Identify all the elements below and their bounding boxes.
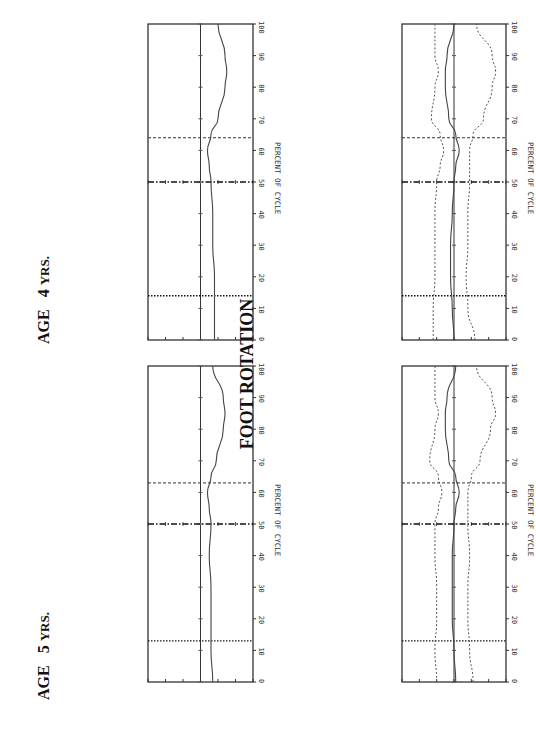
percent-tick-label: 100 <box>510 21 518 34</box>
chart-age5-sd: 3020100-10-20-300102030405060708090100PE… <box>362 362 536 692</box>
percent-tick-label: 80 <box>257 426 265 434</box>
percent-tick-label: 40 <box>257 553 265 561</box>
percent-tick-label: 100 <box>257 21 265 34</box>
percent-tick-label: 0 <box>257 337 265 341</box>
percent-tick-label: 50 <box>257 521 265 529</box>
percent-tick-label: 60 <box>257 147 265 155</box>
x-axis-label: PERCENT OF CYCLE <box>526 484 535 557</box>
percent-tick-label: 90 <box>510 395 518 403</box>
percent-tick-label: 100 <box>257 363 265 376</box>
chart-age5-mean: 3020100-10-20-300102030405060708090100PE… <box>108 362 283 692</box>
percent-tick-label: 20 <box>257 274 265 282</box>
percent-tick-label: 30 <box>510 584 518 592</box>
percent-tick-label: 0 <box>257 679 265 683</box>
percent-tick-label: 70 <box>257 458 265 466</box>
x-axis-label: PERCENT OF CYCLE <box>273 142 282 215</box>
age-text: AGE <box>35 309 52 344</box>
percent-tick-label: 0 <box>510 337 518 341</box>
percent-tick-label: 90 <box>510 53 518 61</box>
percent-tick-label: 50 <box>257 179 265 187</box>
percent-tick-label: 70 <box>510 458 518 466</box>
age-value: 4 <box>35 289 52 297</box>
age-unit: YRS. <box>37 256 52 285</box>
percent-tick-label: 40 <box>510 553 518 561</box>
age-value: 5 <box>35 645 52 653</box>
percent-tick-label: 60 <box>510 489 518 497</box>
x-axis-label: PERCENT OF CYCLE <box>273 484 282 557</box>
percent-tick-label: 70 <box>510 116 518 124</box>
age-text: AGE <box>35 665 52 700</box>
x-axis-label: PERCENT OF CYCLE <box>526 142 535 215</box>
percent-tick-label: 50 <box>510 521 518 529</box>
age-unit: YRS. <box>37 612 52 641</box>
percent-tick-label: 50 <box>510 179 518 187</box>
percent-tick-label: 20 <box>510 274 518 282</box>
percent-tick-label: 30 <box>257 242 265 250</box>
percent-tick-label: 80 <box>257 84 265 92</box>
percent-tick-label: 40 <box>257 211 265 219</box>
percent-tick-label: 10 <box>510 305 518 313</box>
percent-tick-label: 80 <box>510 426 518 434</box>
percent-tick-label: 70 <box>257 116 265 124</box>
percent-tick-label: 10 <box>257 647 265 655</box>
percent-tick-label: 40 <box>510 211 518 219</box>
percent-tick-label: 90 <box>257 53 265 61</box>
percent-tick-label: 10 <box>510 647 518 655</box>
percent-tick-label: 30 <box>257 584 265 592</box>
percent-tick-label: 20 <box>510 616 518 624</box>
percent-tick-label: 90 <box>257 395 265 403</box>
chart-age4-mean: 3020100-10-20-300102030405060708090100PE… <box>108 20 283 350</box>
percent-tick-label: 80 <box>510 84 518 92</box>
percent-tick-label: 100 <box>510 363 518 376</box>
chart-age4-sd: 3020100-10-20-300102030405060708090100PE… <box>362 20 536 350</box>
percent-tick-label: 20 <box>257 616 265 624</box>
age-label-5: AGE 5 YRS. <box>35 612 53 700</box>
age-label-4: AGE 4 YRS. <box>35 256 53 344</box>
percent-tick-label: 60 <box>257 489 265 497</box>
percent-tick-label: 30 <box>510 242 518 250</box>
percent-tick-label: 10 <box>257 305 265 313</box>
percent-tick-label: 0 <box>510 679 518 683</box>
percent-tick-label: 60 <box>510 147 518 155</box>
